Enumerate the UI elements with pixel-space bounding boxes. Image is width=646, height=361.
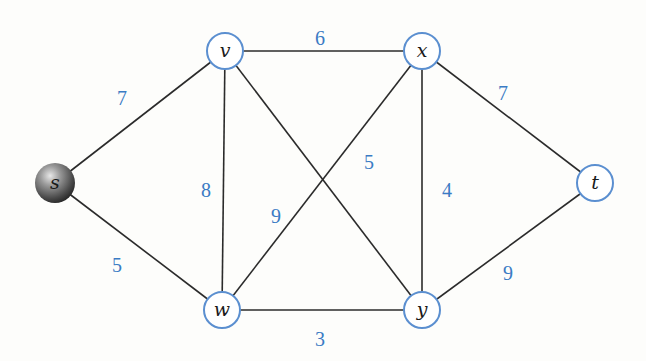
node-label-s: s <box>50 171 60 193</box>
edge-v-w <box>222 51 225 310</box>
weight-label-x-t: 7 <box>498 82 508 104</box>
node-label-x: x <box>417 39 428 61</box>
graph-diagram: 7568594739 svxtwy <box>0 0 646 361</box>
node-label-t: t <box>591 171 599 193</box>
weight-label-x-w: 9 <box>271 205 281 227</box>
node-s: s <box>35 163 75 203</box>
node-label-v: v <box>220 39 231 61</box>
node-t: t <box>577 165 613 201</box>
node-v: v <box>207 33 243 69</box>
node-y: y <box>404 292 440 328</box>
edge-s-w <box>55 183 222 310</box>
edge-s-v <box>55 51 225 183</box>
edges-layer <box>55 51 595 310</box>
weight-label-s-w: 5 <box>112 254 122 276</box>
weight-label-w-y: 3 <box>315 328 325 350</box>
edge-x-t <box>422 51 595 183</box>
weight-label-v-w: 8 <box>201 179 211 201</box>
weight-label-s-v: 7 <box>117 87 127 109</box>
node-label-y: y <box>416 298 428 320</box>
node-label-w: w <box>214 298 230 320</box>
edge-y-t <box>422 183 595 310</box>
node-x: x <box>404 33 440 69</box>
weight-label-v-x: 6 <box>315 27 325 49</box>
weight-label-v-y: 5 <box>364 151 374 173</box>
weight-label-y-t: 9 <box>503 262 513 284</box>
node-w: w <box>204 292 240 328</box>
weight-label-x-y: 4 <box>442 179 452 201</box>
